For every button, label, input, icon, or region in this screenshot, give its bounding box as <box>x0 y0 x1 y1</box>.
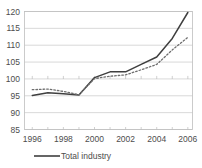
x-tick-label-2004: 2004 <box>147 134 166 144</box>
chart-canvas: 859095100105110115120 199619982000200220… <box>0 0 202 168</box>
y-tick-label-120: 120 <box>6 7 20 17</box>
line-chart: 859095100105110115120 199619982000200220… <box>0 0 202 168</box>
x-tick-label-2000: 2000 <box>85 134 104 144</box>
legend-label-total-industry: Total industry <box>61 151 112 161</box>
x-tick-label-2006: 2006 <box>178 134 197 144</box>
x-tick-label-2002: 2002 <box>116 134 135 144</box>
y-tick-label-110: 110 <box>6 40 20 50</box>
y-tick-label-105: 105 <box>6 57 20 67</box>
x-tick-label-1996: 1996 <box>23 134 42 144</box>
y-tick-label-90: 90 <box>11 108 21 118</box>
y-tick-label-115: 115 <box>6 23 20 33</box>
y-tick-label-100: 100 <box>6 74 20 84</box>
x-tick-label-1998: 1998 <box>54 134 73 144</box>
y-tick-label-95: 95 <box>11 91 21 101</box>
y-tick-label-85: 85 <box>11 125 21 135</box>
